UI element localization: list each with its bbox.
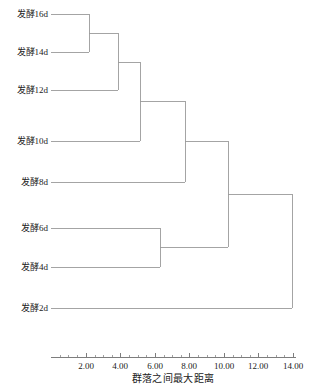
dendrogram-links	[51, 14, 292, 308]
dendrogram-tree	[0, 0, 317, 387]
x-tick-label-2: 2.00	[78, 362, 94, 371]
dendrogram-figure: 发酵16d 发酵14d 发酵12d 发酵10d 发酵8d 发酵6d 发酵4d 发…	[0, 0, 317, 387]
leaf-label-4: 发酵8d	[0, 178, 48, 187]
x-tick-label-10: 10.00	[214, 362, 234, 371]
x-tick-label-12: 12.00	[248, 362, 268, 371]
x-tick-label-14: 14.00	[283, 362, 303, 371]
leaf-label-6: 发酵4d	[0, 263, 48, 272]
x-axis	[51, 353, 296, 357]
leaf-label-3: 发酵10d	[0, 137, 48, 146]
x-tick-label-6: 6.00	[147, 362, 163, 371]
x-tick-label-8: 8.00	[181, 362, 197, 371]
leaf-label-2: 发酵12d	[0, 86, 48, 95]
x-tick-label-4: 4.00	[112, 362, 128, 371]
leaf-label-7: 发酵2d	[0, 304, 48, 313]
leaf-label-5: 发酵6d	[0, 224, 48, 233]
x-axis-title: 群落之间最大距离	[132, 374, 214, 384]
leaf-label-0: 发酵16d	[0, 10, 48, 19]
leaf-label-1: 发酵14d	[0, 48, 48, 57]
